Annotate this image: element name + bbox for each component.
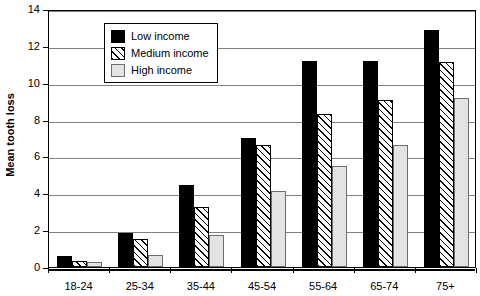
- y-tick-label: 4: [34, 187, 40, 200]
- legend-label-high: High income: [131, 64, 192, 77]
- y-tick-2: 2: [0, 231, 48, 232]
- y-tick-label: 6: [34, 150, 40, 163]
- y-tick-label: 10: [28, 77, 40, 90]
- x-tick-mark-0: [48, 268, 49, 273]
- bar-18-24-high: [87, 262, 102, 267]
- plot-area: Low incomeMedium incomeHigh income: [48, 10, 476, 268]
- gridline-2: [49, 232, 475, 233]
- bar-55-64-high: [332, 166, 347, 267]
- legend-swatch-medium-icon: [111, 47, 125, 60]
- chart-legend: Low incomeMedium incomeHigh income: [104, 23, 218, 83]
- legend-item-low: Low income: [111, 29, 209, 43]
- bar-75plus-low: [424, 30, 439, 267]
- bar-45-54-medium: [256, 145, 271, 267]
- bar-chart: Mean tooth loss 02468101214 Low incomeMe…: [0, 0, 480, 296]
- bar-35-44-medium: [194, 207, 209, 267]
- x-tick-mark-3: [231, 268, 232, 273]
- x-axis-label-65-74: 65-74: [370, 280, 398, 293]
- x-tick-mark-2: [170, 268, 171, 273]
- x-tick-mark-4: [293, 268, 294, 273]
- x-axis-label-45-54: 45-54: [248, 280, 276, 293]
- y-tick-label: 8: [34, 114, 40, 127]
- x-tick-mark-6: [415, 268, 416, 273]
- x-axis-label-18-24: 18-24: [64, 280, 92, 293]
- gridline-8: [49, 122, 475, 123]
- x-axis-label-35-44: 35-44: [187, 280, 215, 293]
- bar-45-54-high: [271, 191, 286, 267]
- y-tick-10: 10: [0, 84, 48, 85]
- legend-item-high: High income: [111, 63, 209, 77]
- gridline-4: [49, 195, 475, 196]
- y-tick-4: 4: [0, 194, 48, 195]
- bar-65-74-high: [393, 145, 408, 267]
- y-tick-label: 12: [28, 40, 40, 53]
- legend-swatch-low-icon: [111, 30, 125, 43]
- legend-label-medium: Medium income: [131, 47, 209, 60]
- bar-75plus-high: [454, 98, 469, 267]
- legend-swatch-high-icon: [111, 64, 125, 77]
- y-tick-12: 12: [0, 47, 48, 48]
- y-tick-label: 2: [34, 224, 40, 237]
- bar-18-24-low: [57, 256, 72, 267]
- bar-55-64-low: [302, 61, 317, 267]
- x-axis-label-25-34: 25-34: [126, 280, 154, 293]
- x-tick-mark-1: [109, 268, 110, 273]
- x-axis-label-55-64: 55-64: [309, 280, 337, 293]
- bar-25-34-low: [118, 233, 133, 267]
- gridline-6: [49, 158, 475, 159]
- legend-item-medium: Medium income: [111, 46, 209, 60]
- gridline-10: [49, 85, 475, 86]
- x-axis: 18-2425-3435-4445-5455-6465-7475+: [48, 268, 476, 296]
- bar-45-54-low: [241, 138, 256, 267]
- bar-35-44-low: [179, 185, 194, 267]
- bar-25-34-high: [148, 255, 163, 267]
- bar-65-74-medium: [378, 100, 393, 267]
- bar-75plus-medium: [439, 62, 454, 267]
- y-tick-0: 0: [0, 268, 48, 269]
- gridline-14: [49, 11, 475, 12]
- bar-35-44-high: [209, 235, 224, 267]
- bar-25-34-medium: [133, 239, 148, 267]
- y-tick-label: 14: [28, 3, 40, 16]
- bar-55-64-medium: [317, 114, 332, 267]
- y-tick-8: 8: [0, 121, 48, 122]
- y-tick-14: 14: [0, 10, 48, 11]
- x-tick-mark-7: [476, 268, 477, 273]
- x-tick-mark-5: [354, 268, 355, 273]
- bar-18-24-medium: [72, 261, 87, 267]
- y-tick-label: 0: [34, 261, 40, 274]
- bar-65-74-low: [363, 61, 378, 267]
- x-axis-label-75plus: 75+: [436, 280, 455, 293]
- y-tick-6: 6: [0, 157, 48, 158]
- legend-label-low: Low income: [131, 30, 190, 43]
- y-axis-ticks: 02468101214: [0, 10, 48, 268]
